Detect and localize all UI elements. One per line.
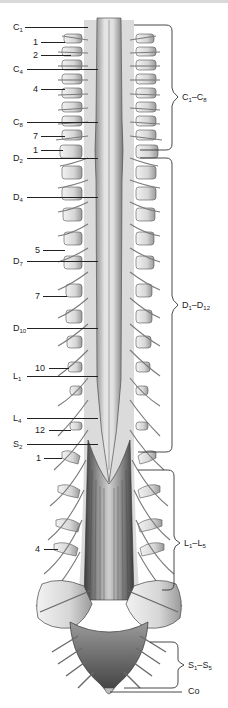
range-sacral: S1–S5: [188, 660, 212, 671]
brace-lumbar: [138, 470, 180, 590]
range-cervical: C1–C8: [182, 92, 207, 103]
brace-sacral: [124, 642, 184, 688]
region-braces: [0, 0, 228, 708]
label-coccygeal: Co: [188, 686, 200, 696]
brace-thoracic: [138, 158, 178, 452]
range-lumbar: L1–L5: [184, 538, 206, 549]
brace-cervical: [134, 25, 178, 150]
range-thoracic: D1–D12: [182, 300, 210, 311]
